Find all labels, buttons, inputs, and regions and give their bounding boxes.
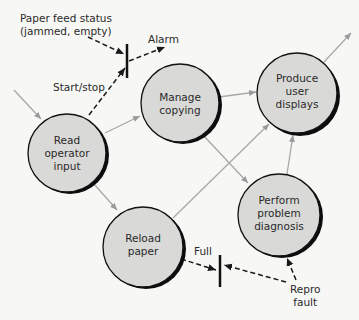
flow-external-to-read bbox=[14, 90, 41, 119]
node-label-line: Manage bbox=[145, 91, 215, 104]
control-bar-to-alarm bbox=[129, 47, 165, 61]
label-start-stop: Start/stop bbox=[53, 81, 105, 94]
flow-manage-to-diagnosis bbox=[203, 135, 248, 183]
node-label-line: diagnosis bbox=[244, 220, 314, 233]
node-label-line: paper bbox=[108, 245, 178, 258]
node-label-manage-copying: Manage copying bbox=[145, 91, 215, 117]
node-label-line: Reload bbox=[108, 232, 178, 245]
label-line: Paper feed status bbox=[20, 12, 112, 25]
label-line: Repro bbox=[290, 283, 320, 296]
label-paper-feed-status: Paper feed status (jammed, empty) bbox=[20, 12, 112, 38]
control-full-to-bar bbox=[181, 259, 216, 270]
flow-diagnosis-to-produce bbox=[287, 135, 293, 174]
flow-produce-to-external bbox=[324, 33, 351, 62]
label-repro-fault: Repro fault bbox=[290, 283, 320, 309]
node-label-line: problem bbox=[244, 207, 314, 220]
label-full: Full bbox=[194, 245, 212, 258]
flow-read-to-reload bbox=[94, 184, 117, 210]
flow-read-to-manage bbox=[105, 116, 140, 133]
flow-manage-to-produce bbox=[219, 92, 256, 97]
label-line: (jammed, empty) bbox=[20, 25, 112, 38]
control-repro-to-diagnosis bbox=[287, 258, 296, 280]
control-repro-to-bar bbox=[224, 265, 286, 282]
node-label-line: copying bbox=[145, 104, 215, 117]
label-line: fault bbox=[290, 296, 320, 309]
node-label-read-operator-input: Read operator input bbox=[32, 134, 102, 173]
node-label-produce-user-displays: Produce user displays bbox=[262, 72, 332, 111]
node-label-line: Read bbox=[32, 134, 102, 147]
node-label-line: displays bbox=[262, 98, 332, 111]
node-label-reload-paper: Reload paper bbox=[108, 232, 178, 258]
label-alarm: Alarm bbox=[148, 33, 179, 46]
node-label-line: input bbox=[32, 160, 102, 173]
node-label-line: Perform bbox=[244, 194, 314, 207]
control-paper-feed-to-bar bbox=[88, 37, 124, 54]
node-label-line: Produce bbox=[262, 72, 332, 85]
node-label-line: user bbox=[262, 85, 332, 98]
node-label-line: operator bbox=[32, 147, 102, 160]
node-label-perform-problem-diagnosis: Perform problem diagnosis bbox=[244, 194, 314, 233]
